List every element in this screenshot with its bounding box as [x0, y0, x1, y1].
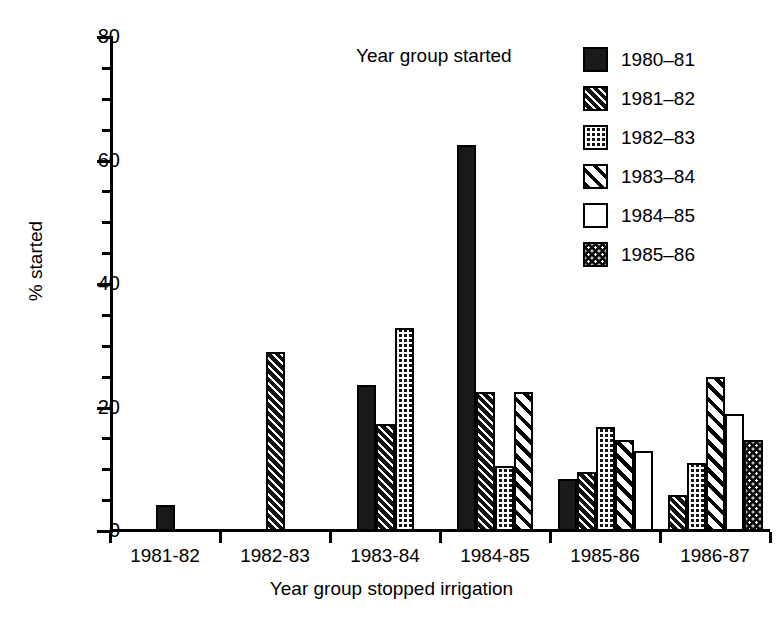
legend-item: 1982–83 — [583, 118, 695, 157]
bar — [725, 414, 744, 531]
bar — [495, 466, 514, 531]
bar — [156, 505, 175, 531]
legend-item: 1981–82 — [583, 79, 695, 118]
bar — [476, 392, 495, 531]
bar — [266, 352, 285, 531]
legend-swatch-icon — [583, 86, 608, 111]
x-tick — [109, 532, 112, 543]
legend-item: 1985–86 — [583, 235, 695, 274]
x-tick — [439, 532, 442, 543]
legend-swatch-icon — [583, 203, 608, 228]
bar — [634, 451, 653, 531]
bar — [577, 472, 596, 531]
legend-title: Year group started — [356, 45, 512, 67]
bar — [744, 440, 763, 531]
x-tick — [549, 532, 552, 543]
legend-item: 1980–81 — [583, 40, 695, 79]
bar — [395, 328, 414, 531]
legend-item-label: 1980–81 — [621, 50, 695, 69]
bar — [668, 495, 687, 531]
x-tick — [219, 532, 222, 543]
legend-swatch-icon — [583, 125, 608, 150]
x-tick-label: 1986-87 — [645, 545, 783, 567]
x-tick — [659, 532, 662, 543]
y-axis-ticks: 020406080 — [0, 0, 120, 620]
x-axis-title: Year group stopped irrigation — [0, 578, 783, 600]
legend-swatch-icon — [583, 47, 608, 72]
x-tick — [329, 532, 332, 543]
legend-item: 1984–85 — [583, 196, 695, 235]
bar — [558, 479, 577, 531]
legend-item: 1983–84 — [583, 157, 695, 196]
bar — [706, 377, 725, 531]
legend-item-label: 1983–84 — [621, 167, 695, 186]
legend-item-label: 1984–85 — [621, 206, 695, 225]
legend-item-label: 1982–83 — [621, 128, 695, 147]
legend-item-label: 1985–86 — [621, 245, 695, 264]
bar — [615, 440, 634, 531]
bar — [687, 463, 706, 531]
bar — [514, 392, 533, 531]
bar-group — [220, 37, 330, 531]
bar — [357, 385, 376, 531]
legend-swatch-icon — [583, 164, 608, 189]
legend-swatch-icon — [583, 242, 608, 267]
legend-item-label: 1981–82 — [621, 89, 695, 108]
bar-group — [440, 37, 550, 531]
bar-group — [110, 37, 220, 531]
bar-chart: % started 020406080 Year group stopped i… — [0, 0, 783, 620]
bar — [376, 424, 395, 531]
x-tick — [769, 532, 772, 543]
bar — [596, 427, 615, 531]
bar-group — [330, 37, 440, 531]
legend: 1980–811981–821982–831983–841984–851985–… — [583, 40, 695, 274]
bar — [457, 145, 476, 531]
